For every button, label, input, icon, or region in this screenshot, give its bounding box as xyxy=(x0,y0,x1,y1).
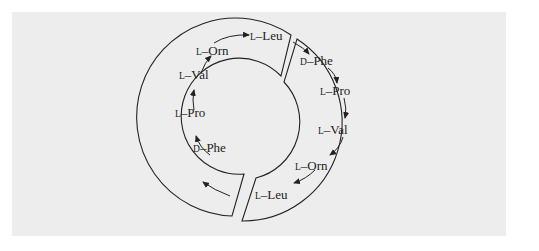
left-chain-labels: D–Phe L–Pro L–Val L–Orn L–Leu xyxy=(175,28,283,155)
left-residue-2: L–Pro xyxy=(175,105,205,120)
cyclic-peptide-diagram: D–Phe L–Pro L–Val L–Orn L–Leu D–Phe L–Pr… xyxy=(0,0,539,251)
right-residue-4: L–Orn xyxy=(295,158,328,173)
right-residue-2: L–Pro xyxy=(320,83,350,98)
right-residue-1: D–Phe xyxy=(300,53,333,68)
left-residue-3: L–Val xyxy=(179,67,209,82)
left-residue-5: L–Leu xyxy=(250,28,283,43)
left-residue-1: D–Phe xyxy=(193,140,226,155)
right-residue-3: L–Val xyxy=(318,122,348,137)
right-residue-5: L–Leu xyxy=(255,187,288,202)
left-residue-4: L–Orn xyxy=(196,43,229,58)
